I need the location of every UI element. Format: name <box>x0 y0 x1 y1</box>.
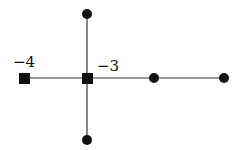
square-node-n2 <box>82 73 93 84</box>
square-node-n1 <box>19 73 30 84</box>
node-label-n2: −3 <box>97 59 119 74</box>
graph-svg <box>0 0 233 150</box>
circle-node-n5 <box>149 73 159 83</box>
circle-node-n3 <box>82 9 92 19</box>
circle-node-n4 <box>82 135 92 145</box>
graph-diagram: −4 −3 <box>0 0 233 150</box>
node-label-n1: −4 <box>13 55 35 70</box>
circle-node-n6 <box>219 73 229 83</box>
